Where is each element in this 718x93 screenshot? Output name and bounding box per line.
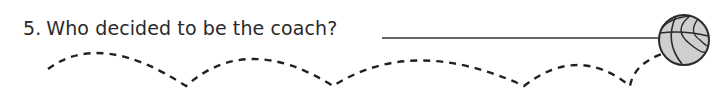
illustration <box>0 0 718 93</box>
bounce-trail-dashed-path <box>48 53 662 86</box>
basketball-icon <box>659 15 709 65</box>
